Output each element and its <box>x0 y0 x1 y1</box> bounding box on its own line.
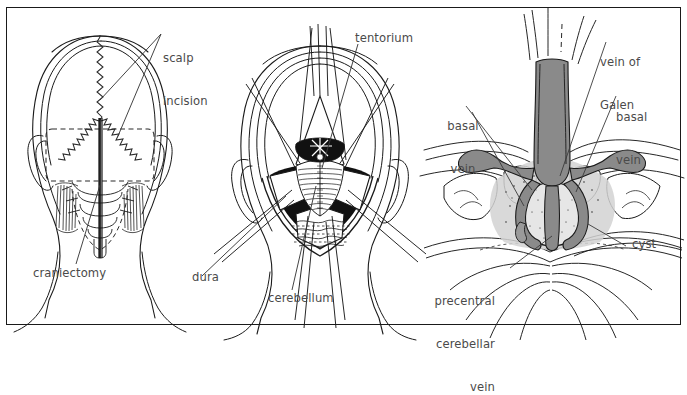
label-scalp-incision-line1: scalp <box>163 51 208 65</box>
label-dura: dura <box>192 270 219 284</box>
label-precentral-line3: vein <box>399 380 495 394</box>
label-basal-vein-right: basal vein <box>616 81 647 196</box>
tentorium-incisura <box>296 138 345 162</box>
label-basal-vein-right-line2: vein <box>616 153 647 167</box>
label-scalp-incision: scalp incision <box>163 22 208 137</box>
label-basal-vein-left-line1: basal <box>440 119 486 133</box>
label-precentral-line1: precentral <box>399 294 495 308</box>
label-cyst: cyst <box>632 237 656 251</box>
label-precentral-line2: cerebellar <box>399 337 495 351</box>
label-vein-of-galen-line1: vein of <box>600 55 640 69</box>
label-basal-vein-right-line1: basal <box>616 110 647 124</box>
leader-dura <box>202 196 286 276</box>
label-basal-vein-left-line2: vein <box>440 162 486 176</box>
label-craniectomy: craniectomy <box>33 266 106 280</box>
label-precentral-cerebellar-vein: precentral cerebellar vein <box>399 265 495 395</box>
label-tentorium: tentorium <box>355 31 413 45</box>
label-scalp-incision-line2: incision <box>163 94 208 108</box>
label-basal-vein-left: basal vein <box>440 90 486 205</box>
label-cerebellum: cerebellum <box>268 291 334 305</box>
